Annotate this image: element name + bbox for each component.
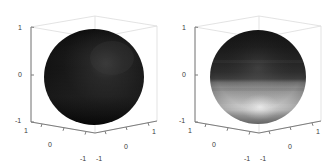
figure-canvas: 1 0 -1 1 0 -1 -1 0 1 [0,0,327,165]
y-tick-label: -1 [244,155,250,162]
z-tick-label: 0 [18,71,22,78]
plot-panel-left[interactable]: 1 0 -1 1 0 -1 -1 0 1 [0,0,163,165]
sphere-surface-left [44,29,144,125]
axes3d-left [0,0,163,165]
x-tick-label: 1 [316,128,320,135]
x-tick-label: -1 [260,155,266,162]
y-axis-line [195,122,259,133]
y-tick-label: 1 [188,127,192,134]
x-tick-label: -1 [96,155,102,162]
z-tick-label: 1 [182,24,186,31]
y-tick-label: -1 [80,155,86,162]
plot-panel-right[interactable]: 1 0 -1 1 0 -1 -1 0 1 [164,0,327,165]
x-tick-label: 0 [124,143,128,150]
z-tick-label: 1 [18,24,22,31]
z-tick-label: -1 [179,117,185,124]
y-tick-label: 0 [48,141,52,148]
y-tick-label: 0 [212,141,216,148]
z-tick-label: 0 [182,71,186,78]
z-tick-label: -1 [15,117,21,124]
sphere-surface-right [210,30,306,124]
y-tick-label: 1 [24,127,28,134]
x-tick-label: 1 [152,128,156,135]
x-tick-label: 0 [288,143,292,150]
axes3d-right [164,0,327,165]
